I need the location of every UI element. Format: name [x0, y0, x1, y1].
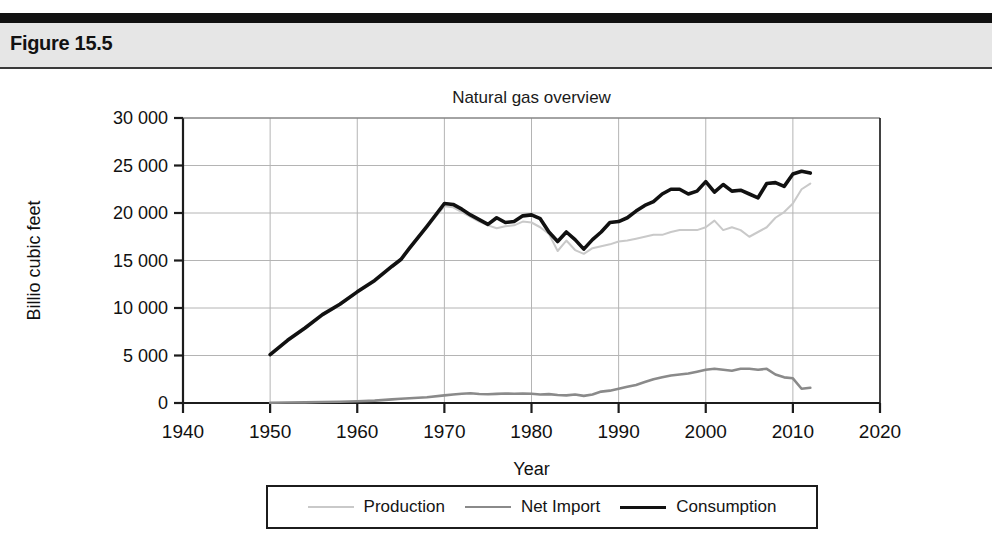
legend-entry-net-import[interactable]: Net Import	[465, 497, 600, 517]
line-chart-plot: 194019501960197019801990200020102020 05 …	[0, 70, 992, 490]
data-series-layer	[270, 171, 810, 403]
x-axis-title: Year	[513, 459, 549, 479]
axis-lines	[174, 118, 880, 413]
x-tick-label: 1960	[336, 421, 378, 442]
header-divider-rule	[0, 67, 992, 69]
y-tick-label: 20 000	[113, 203, 168, 223]
legend-swatch-line-icon	[465, 506, 511, 508]
legend-swatch-line-icon	[620, 506, 666, 509]
legend-label: Consumption	[676, 497, 776, 517]
x-tick-label: 1980	[510, 421, 552, 442]
y-tick-label: 5 000	[123, 346, 168, 366]
x-tick-label: 1990	[597, 421, 639, 442]
series-line-net-import	[270, 369, 810, 403]
x-tick-label: 1950	[249, 421, 291, 442]
legend-label: Net Import	[521, 497, 600, 517]
x-axis-tick-labels: 194019501960197019801990200020102020	[162, 421, 901, 442]
chart-legend: ProductionNet ImportConsumption	[266, 485, 818, 529]
x-tick-label: 2010	[772, 421, 814, 442]
y-tick-label: 15 000	[113, 251, 168, 271]
figure-label: Figure 15.5	[10, 29, 112, 57]
x-tick-label: 2020	[859, 421, 901, 442]
figure-header: Figure 15.5	[0, 0, 992, 70]
x-tick-label: 1970	[423, 421, 465, 442]
legend-swatch-line-icon	[308, 506, 354, 508]
y-tick-label: 25 000	[113, 156, 168, 176]
x-tick-label: 2000	[685, 421, 727, 442]
series-line-production	[270, 184, 810, 356]
x-tick-label: 1940	[162, 421, 204, 442]
y-tick-label: 30 000	[113, 108, 168, 128]
header-black-bar	[0, 13, 992, 23]
chart-figure: Natural gas overview 1940195019601970198…	[0, 70, 992, 560]
legend-label: Production	[364, 497, 445, 517]
y-tick-label: 0	[158, 393, 168, 413]
legend-entry-production[interactable]: Production	[308, 497, 445, 517]
y-tick-label: 10 000	[113, 298, 168, 318]
grid-lines	[183, 118, 880, 403]
header-gray-band	[0, 23, 992, 68]
legend-entry-consumption[interactable]: Consumption	[620, 497, 776, 517]
y-axis-tick-labels: 05 00010 00015 00020 00025 00030 000	[113, 108, 168, 413]
series-line-consumption	[270, 171, 810, 354]
y-axis-title: Billio cubic feet	[24, 200, 44, 320]
